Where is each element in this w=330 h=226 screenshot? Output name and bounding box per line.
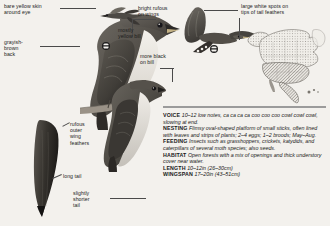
annotation-bright-rufous-on-wings: bright rufous on wings bbox=[138, 5, 200, 17]
field-guide-page: bare yellow skin around eye grayish- bro… bbox=[0, 0, 330, 226]
info-entry-voice: VOICE 10–12 low notes, ca ca ca ca coo c… bbox=[163, 112, 326, 125]
tail-detail-illustration bbox=[30, 120, 64, 218]
annotation-long-tail: long tail bbox=[63, 173, 103, 179]
info-value-voice: 10–12 low notes, ca ca ca ca coo coo coo… bbox=[163, 112, 318, 125]
annotation-slightly-shorter-tail: slightly shorter tail bbox=[73, 190, 109, 209]
info-key-wingspan: WINGSPAN bbox=[163, 171, 193, 177]
info-divider bbox=[163, 106, 326, 108]
leader-more-black-on-bill-h bbox=[160, 68, 174, 69]
info-entry-habitat: HABITAT Open forests with a mix of openi… bbox=[163, 152, 326, 165]
annotation-mostly-yellow-bill: mostly yellow bill bbox=[118, 27, 160, 39]
info-value-habitat: Open forests with a mix of openings and … bbox=[163, 152, 321, 165]
leader-mostly-yellow-bill-h bbox=[132, 19, 156, 20]
annotation-grayish-brown-back: grayish- brown back bbox=[4, 39, 40, 58]
annotation-large-white-spots: large white spots on tips of tail feathe… bbox=[241, 3, 315, 15]
annotation-more-black-on-bill: more black on bill bbox=[140, 53, 182, 65]
info-entry-length: LENGTH 10–12in (26–30cm) bbox=[163, 165, 326, 172]
info-key-voice: VOICE bbox=[163, 112, 180, 118]
annotation-bare-yellow-skin: bare yellow skin around eye bbox=[4, 3, 64, 15]
info-key-feeding: FEEDING bbox=[163, 138, 188, 144]
info-key-length: LENGTH bbox=[163, 165, 186, 171]
annotation-rufous-outer-wing-feathers: rufous outer wing feathers bbox=[70, 121, 100, 146]
range-badge-icon-b bbox=[210, 45, 218, 53]
perched-second-bird-illustration bbox=[96, 76, 166, 172]
leader-bare-yellow-skin bbox=[60, 8, 96, 9]
info-entry-nesting: NESTING Flimsy oval-shaped platform of s… bbox=[163, 125, 326, 138]
info-key-nesting: NESTING bbox=[163, 125, 188, 131]
leader-grayish-brown-back bbox=[40, 46, 80, 47]
info-entry-feeding: FEEDING Insects such as grasshoppers, cr… bbox=[163, 138, 326, 151]
info-value-wingspan: 17–20in (43–51cm) bbox=[194, 171, 240, 177]
leader-more-black-on-bill bbox=[172, 68, 173, 82]
leader-bright-rufous bbox=[204, 10, 238, 11]
species-info-block: VOICE 10–12 low notes, ca ca ca ca coo c… bbox=[163, 112, 326, 178]
info-key-habitat: HABITAT bbox=[163, 152, 187, 158]
info-value-length: 10–12in (26–30cm) bbox=[187, 165, 233, 171]
range-badge-icon-a bbox=[102, 42, 110, 50]
range-map bbox=[247, 22, 327, 104]
info-entry-wingspan: WINGSPAN 17–20in (43–51cm) bbox=[163, 171, 326, 178]
leader-large-white-spots bbox=[239, 18, 240, 40]
leader-slightly-shorter-tail bbox=[110, 198, 146, 199]
